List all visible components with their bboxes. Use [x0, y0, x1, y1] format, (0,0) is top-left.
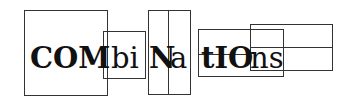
- logo-text-com: COM: [30, 44, 110, 73]
- logo-text-tio: tIO: [201, 44, 253, 73]
- combinations-logo: COM bi N a tIO ns: [0, 0, 347, 97]
- logo-text-a: a: [170, 44, 187, 73]
- logo-text-ns: ns: [250, 44, 284, 73]
- logo-text-bi: bi: [111, 44, 139, 73]
